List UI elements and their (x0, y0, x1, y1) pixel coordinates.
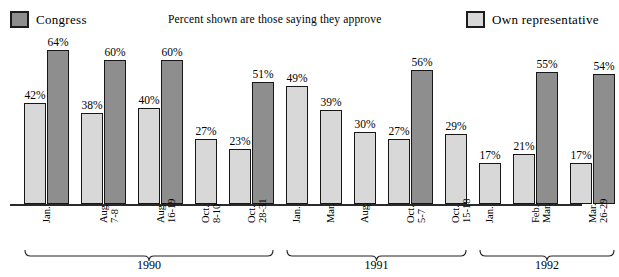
tick-label-line: 7-8 (109, 209, 120, 223)
tick-label-line: 5-7 (416, 209, 427, 223)
bar-own-representative (411, 70, 433, 204)
bar-congress (286, 86, 308, 204)
x-tick-5: Jan. (291, 209, 302, 223)
tick-label-line: Jan. (291, 209, 302, 223)
bar-value-own-representative: 55% (525, 58, 569, 70)
x-tick-6: Mar. (325, 209, 336, 223)
x-tick-1: Aug.7-8 (98, 209, 120, 223)
bar-congress (445, 134, 467, 204)
x-tick-12: Mar.26-29 (587, 209, 609, 223)
tick-label-line: Mar. (541, 209, 552, 223)
tick-label-line: Mar. (325, 209, 336, 223)
tick-label-line: Mar. (587, 209, 598, 223)
plot-area: 42%64%38%60%40%60%27%23%51%49%39%30%27%5… (14, 36, 580, 204)
tick-label-line: 8-10 (211, 209, 222, 223)
bar-congress (229, 149, 251, 204)
tick-label-line: Jan. (41, 209, 52, 223)
bar-congress (354, 132, 376, 204)
x-tick-0: Jan. (41, 209, 52, 223)
x-tick-11: Feb.-Mar. (530, 209, 552, 223)
x-tick-10: Jan. (484, 209, 495, 223)
legend-label-congress: Congress (36, 12, 87, 28)
x-tick-4: Oct.28-31 (246, 209, 268, 223)
tick-label-line: Aug. (155, 209, 166, 223)
tick-label-line: Oct. (450, 209, 461, 223)
bar-value-congress: 49% (275, 72, 319, 84)
bar-congress (138, 108, 160, 204)
year-label-1990: 1990 (24, 258, 274, 273)
x-tick-2: Aug.16-19 (155, 209, 177, 223)
bar-congress (570, 163, 592, 204)
tick-label-line: Oct. (246, 209, 257, 223)
bar-congress (513, 154, 535, 204)
bar-value-congress: 29% (434, 120, 478, 132)
x-tick-7: Aug. (359, 209, 370, 223)
year-label-1992: 1992 (479, 258, 615, 273)
bar-value-own-representative: 56% (400, 56, 444, 68)
bar-value-own-representative: 60% (150, 46, 194, 58)
bar-own-representative (47, 50, 69, 204)
tick-label-line: 28-31 (257, 209, 268, 223)
tick-label-line: Aug. (98, 209, 109, 223)
chart-subtitle: Percent shown are those saying they appr… (168, 13, 381, 25)
x-tick-8: Oct.5-7 (405, 209, 427, 223)
bar-congress (320, 110, 342, 204)
bar-own-representative (104, 60, 126, 204)
bar-own-representative (593, 74, 615, 204)
tick-label-line: Jan. (484, 209, 495, 223)
tick-label-line: Feb.- (530, 209, 541, 223)
year-label-1991: 1991 (286, 258, 467, 273)
tick-label-line: 26-29 (598, 209, 609, 223)
x-tick-3: Oct.8-10 (200, 209, 222, 223)
bar-congress (479, 163, 501, 204)
legend-item-congress: Congress (10, 11, 87, 28)
congress-swatch (10, 11, 29, 28)
bar-congress (24, 103, 46, 204)
legend-item-own-representative: Own representative (466, 11, 599, 28)
bar-congress (388, 139, 410, 204)
tick-label-line: 16-19 (166, 209, 177, 223)
bar-value-own-representative: 54% (582, 60, 619, 72)
tick-label-line: Oct. (405, 209, 416, 223)
bar-own-representative (161, 60, 183, 204)
bar-value-own-representative: 60% (93, 46, 137, 58)
bar-congress (195, 139, 217, 204)
bar-congress (81, 113, 103, 204)
bar-value-congress: 39% (309, 96, 353, 108)
x-tick-9: Oct.15-18 (450, 209, 472, 223)
bar-own-representative (536, 72, 558, 204)
bar-own-representative (252, 82, 274, 204)
legend-label-own-representative: Own representative (492, 12, 599, 28)
tick-label-line: Aug. (359, 209, 370, 223)
tick-label-line: 15-18 (461, 209, 472, 223)
bar-value-own-representative: 64% (36, 36, 80, 48)
own-representative-swatch (466, 11, 485, 28)
tick-label-line: Oct. (200, 209, 211, 223)
